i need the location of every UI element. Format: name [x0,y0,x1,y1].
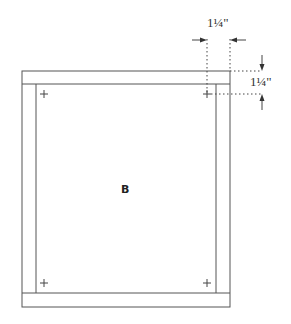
vertical-dimension-label: 1¼" [250,74,272,90]
dimension-arrow-icon [260,94,265,110]
plus-mark-icon [40,279,48,287]
frame-diagram [0,0,291,324]
dimension-arrow-icon [230,38,246,43]
dimension-arrow-icon [260,55,265,71]
horizontal-dimension-label: 1¼" [207,15,229,31]
panel-label: B [121,183,129,196]
plus-mark-icon [40,90,48,98]
dimension-arrow-icon [192,38,207,43]
plus-mark-icon [203,279,211,287]
